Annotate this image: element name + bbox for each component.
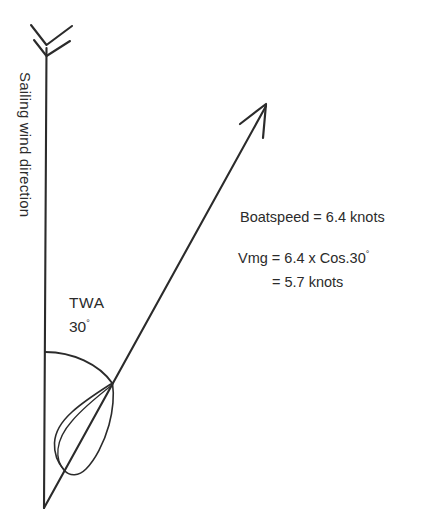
- twa-angle-number: 30: [69, 318, 86, 335]
- twa-angle-arc: [46, 352, 113, 384]
- twa-angle-value: 30°: [69, 318, 90, 336]
- wind-direction-label: Sailing wind direction: [17, 72, 34, 217]
- twa-label: TWA: [69, 294, 105, 312]
- vmg-formula-text: Vmg = 6.4 x Cos.30: [238, 250, 366, 266]
- vmg-result-annotation: = 5.7 knots: [272, 274, 343, 291]
- boatspeed-annotation: Boatspeed = 6.4 knots: [240, 209, 385, 226]
- degree-symbol-twa: °: [86, 318, 90, 328]
- sailing-diagram: Sailing wind direction TWA 30° Boatspeed…: [0, 0, 424, 522]
- degree-symbol-vmg: °: [366, 249, 370, 259]
- wind-direction-shaft: [44, 48, 47, 508]
- wind-arrowhead-lower-chevron: [34, 40, 70, 56]
- vmg-formula-annotation: Vmg = 6.4 x Cos.30°: [238, 249, 369, 267]
- wind-arrowhead-upper-chevron: [31, 25, 72, 45]
- boat-heading-arrowhead: [240, 104, 266, 138]
